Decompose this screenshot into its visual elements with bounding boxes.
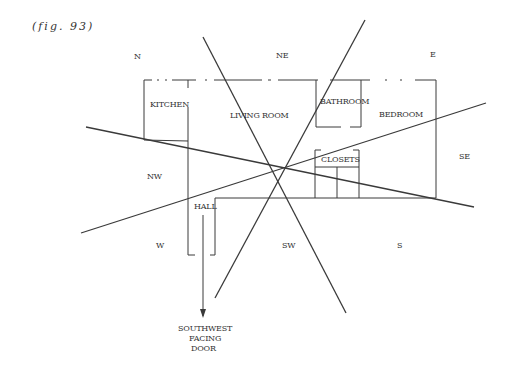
direction-w: W (156, 241, 165, 250)
room-closets: CLOSETS (321, 155, 360, 164)
room-hall: HALL (194, 202, 217, 211)
direction-ne: NE (276, 51, 289, 60)
door-label-line2: FACING (189, 334, 221, 343)
bagua-floor-plan-diagram: (fig. 93) N NE E SE S SW W NW KITCHEN LI… (0, 0, 511, 373)
direction-e: E (430, 50, 436, 59)
bagua-lines (81, 20, 486, 313)
room-bathroom: BATHROOM (320, 97, 369, 106)
direction-n: N (134, 52, 141, 61)
door-label-line3: DOOR (191, 344, 217, 353)
direction-s: S (397, 241, 402, 250)
room-bedroom: BEDROOM (379, 110, 423, 119)
figure-caption: (fig. 93) (32, 20, 94, 33)
door-arrow (200, 215, 206, 318)
room-kitchen: KITCHEN (150, 100, 189, 109)
door-label-line1: SOUTHWEST (178, 324, 233, 333)
direction-se: SE (459, 152, 470, 161)
direction-nw: NW (147, 172, 163, 181)
direction-sw: SW (282, 241, 296, 250)
room-living-room: LIVING ROOM (230, 111, 288, 120)
